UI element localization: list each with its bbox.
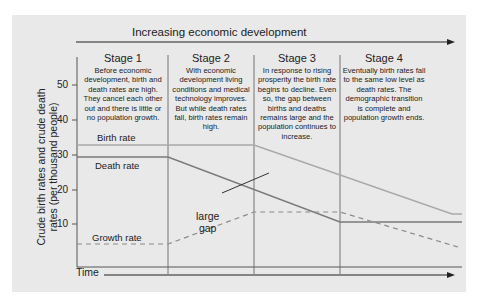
stage-2: Stage 2 With economic development living… — [170, 52, 252, 132]
stage-1-description: Before economic development, birth and d… — [80, 66, 166, 122]
stage-2-description: With economic development living conditi… — [170, 66, 252, 132]
y-ticks — [72, 85, 77, 224]
y-tick-30: 30 — [46, 149, 68, 160]
time-arrow — [104, 272, 455, 278]
stage-3-description: In response to rising prosperity the bir… — [256, 66, 338, 141]
economic-development-arrow — [76, 39, 455, 45]
y-tick-10: 10 — [46, 218, 68, 229]
growth-rate-label: Growth rate — [92, 232, 142, 243]
stage-2-title: Stage 2 — [170, 52, 252, 65]
stage-3-title: Stage 3 — [256, 52, 338, 65]
y-tick-50: 50 — [46, 79, 68, 90]
large-gap-line1: large — [196, 210, 219, 222]
large-gap-annotation: large gap — [196, 210, 219, 234]
stage-1-title: Stage 1 — [80, 52, 166, 65]
death-rate-label: Death rate — [95, 160, 139, 171]
x-axis-label: Time — [76, 266, 99, 278]
stage-4: Stage 4 Eventually birth rates fall to t… — [342, 52, 426, 122]
birth-rate-line — [77, 145, 462, 214]
large-gap-pointer — [222, 173, 269, 193]
y-tick-20: 20 — [46, 184, 68, 195]
stage-3: Stage 3 In response to rising prosperity… — [256, 52, 338, 141]
economic-development-label: Increasing economic development — [132, 26, 307, 38]
y-tick-40: 40 — [46, 114, 68, 125]
large-gap-line2: gap — [196, 222, 219, 234]
chart-svg — [0, 0, 478, 305]
birth-rate-label: Birth rate — [97, 132, 136, 143]
stage-1: Stage 1 Before economic development, bir… — [80, 52, 166, 122]
stage-4-title: Stage 4 — [342, 52, 426, 65]
stage-4-description: Eventually birth rates fall to the same … — [342, 66, 426, 122]
